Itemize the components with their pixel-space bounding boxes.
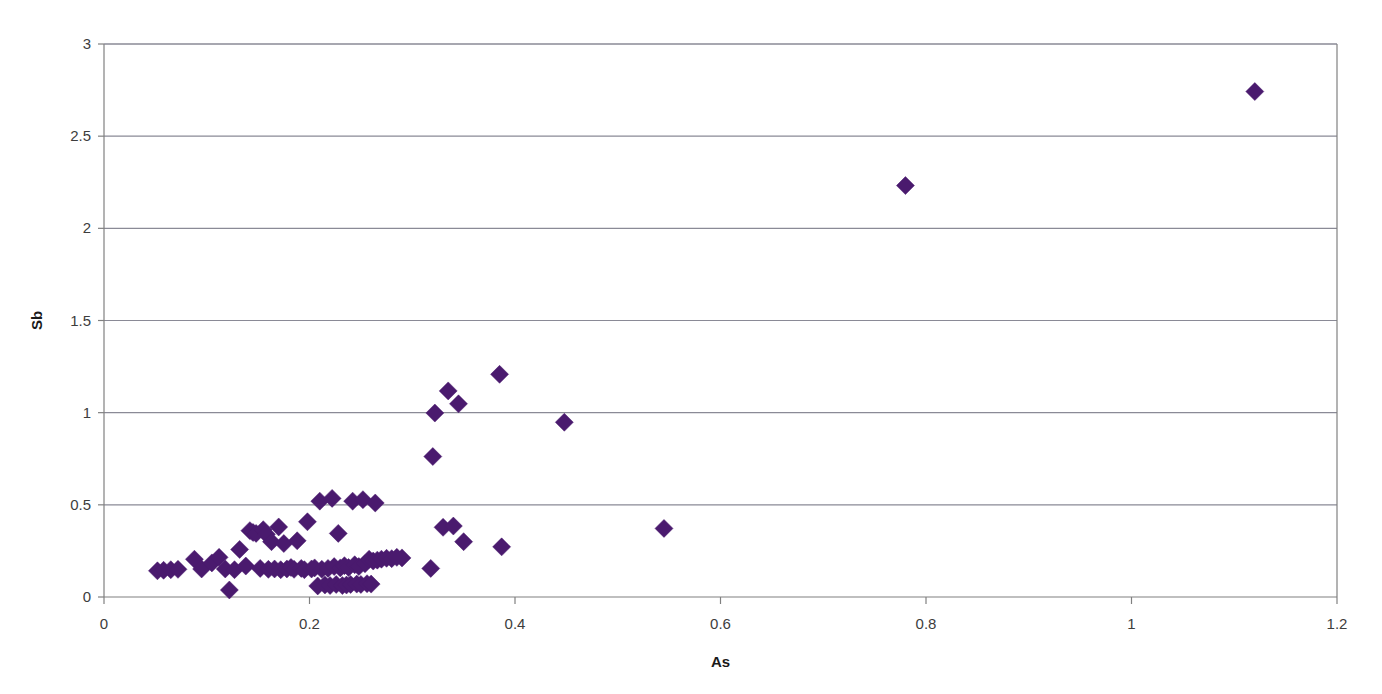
data-point-marker (896, 177, 914, 195)
data-point-marker (449, 395, 467, 413)
axis-titles: AsSb (28, 311, 730, 670)
scatter-chart: 00.511.522.53 00.20.40.60.811.2 AsSb (0, 0, 1382, 694)
data-point-marker (220, 581, 238, 599)
data-point-marker (493, 538, 511, 556)
y-tick-label: 3 (83, 35, 91, 52)
x-axis (104, 44, 1337, 604)
data-point-marker (655, 519, 673, 537)
x-tick-label: 0.8 (916, 615, 937, 632)
x-tick-labels: 00.20.40.60.811.2 (100, 615, 1348, 632)
data-point-marker (1246, 83, 1264, 101)
x-tick-label: 0 (100, 615, 108, 632)
x-tick-label: 1.2 (1327, 615, 1348, 632)
y-tick-label: 2 (83, 219, 91, 236)
y-tick-label: 0.5 (70, 496, 91, 513)
data-point-marker (298, 513, 316, 531)
data-point-marker (426, 404, 444, 422)
x-tick-label: 1 (1127, 615, 1135, 632)
data-point-marker (288, 532, 306, 550)
y-tick-label: 2.5 (70, 127, 91, 144)
x-tick-label: 0.6 (710, 615, 731, 632)
data-point-marker (422, 559, 440, 577)
data-point-marker (329, 524, 347, 542)
y-tick-label: 1.5 (70, 312, 91, 329)
data-point-marker (439, 382, 457, 400)
data-point-marker (231, 540, 249, 558)
data-point-marker (555, 413, 573, 431)
y-tick-label: 1 (83, 404, 91, 421)
gridlines (104, 44, 1337, 505)
y-tick-labels: 00.511.522.53 (70, 35, 91, 605)
x-axis-title: As (711, 653, 730, 670)
x-tick-label: 0.2 (299, 615, 320, 632)
y-axis-title: Sb (28, 311, 45, 330)
y-tick-label: 0 (83, 588, 91, 605)
data-point-marker (455, 533, 473, 551)
y-axis (98, 44, 104, 597)
data-points (148, 83, 1263, 599)
x-tick-label: 0.4 (505, 615, 526, 632)
data-point-marker (491, 365, 509, 383)
data-point-marker (424, 448, 442, 466)
data-point-marker (275, 535, 293, 553)
plot-canvas: 00.511.522.53 00.20.40.60.811.2 AsSb (0, 0, 1382, 694)
